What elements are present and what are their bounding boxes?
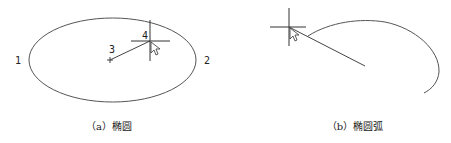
radius-line	[110, 41, 150, 60]
crosshair-cursor-icon	[270, 8, 306, 46]
caption-figure-a: （a）椭圆	[86, 121, 132, 133]
diagram-canvas: 1 2 3 4 （a）椭圆 （b）椭圆弧	[0, 0, 451, 143]
figure-a-ellipse-group	[29, 18, 196, 102]
point-label-3: 3	[109, 45, 115, 55]
point-label-4: 4	[142, 31, 148, 41]
caption-figure-b: （b）椭圆弧	[327, 121, 383, 133]
mouse-pointer-icon	[151, 42, 160, 55]
elliptical-arc-shape	[308, 21, 439, 93]
diagram-svg	[0, 0, 451, 143]
crosshair-cursor-icon	[131, 20, 170, 61]
point-label-1: 1	[15, 56, 21, 66]
figure-b-arc-group	[270, 8, 439, 93]
point-label-2: 2	[204, 56, 210, 66]
arc-start-angle-line	[289, 27, 365, 66]
